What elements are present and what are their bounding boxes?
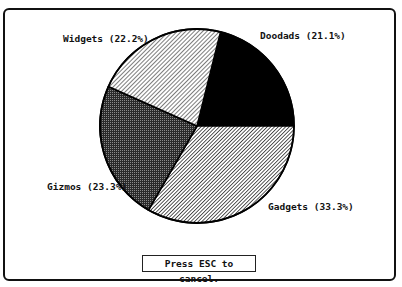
pie-chart [0,0,402,287]
cancel-prompt: Press ESC to cancel. [142,255,256,272]
label-gizmos: Gizmos (23.3%) [47,181,127,192]
label-widgets: Widgets (22.2%) [63,33,149,44]
label-doodads: Doodads (21.1%) [260,30,346,41]
label-gadgets: Gadgets (33.3%) [268,201,354,212]
